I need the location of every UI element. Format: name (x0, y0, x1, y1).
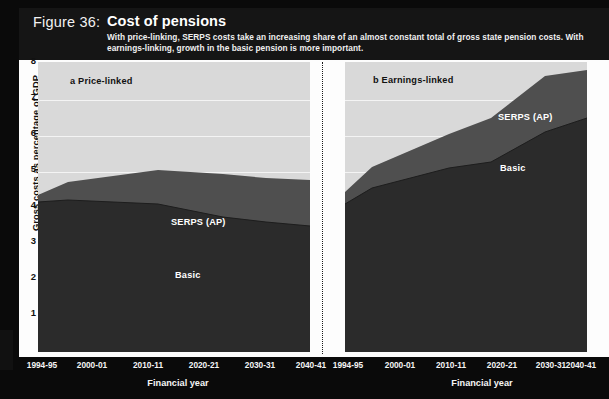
panel-price-linked: a Price-linked SERPS (AP) Basic (38, 62, 310, 352)
x-axis-title-right: Financial year (422, 378, 542, 388)
figure-subtitle: With price-linking, SERPS costs take an … (107, 32, 587, 54)
figure-number: Figure 36: (33, 14, 100, 30)
x-tick-left-2000-01: 2000-01 (64, 360, 120, 370)
panel-earnings-linked: b Earnings-linked SERPS (AP) Basic (345, 62, 587, 352)
x-tick-left-2030-31: 2030-31 (232, 360, 288, 370)
y-tick-8: 8 (8, 55, 36, 66)
x-tick-left-2020-21: 2020-21 (176, 360, 232, 370)
series-label-basic-left: Basic (175, 270, 201, 280)
series-label-serps-right: SERPS (AP) (498, 112, 553, 122)
x-tick-right-2020-21: 2020-21 (474, 360, 530, 370)
figure-title: Cost of pensions (107, 13, 226, 29)
panel-label-a: a Price-linked (70, 76, 133, 86)
series-label-serps-left: SERPS (AP) (171, 217, 226, 227)
y-axis-ticks: 8 7 6 5 4 3 2 1 (0, 60, 36, 360)
panel-label-b: b Earnings-linked (373, 75, 453, 85)
x-tick-left-1994-95: 1994-95 (14, 360, 70, 370)
x-axis-title-left: Financial year (118, 378, 238, 388)
y-tick-6: 6 (8, 127, 36, 138)
y-tick-7: 7 (8, 91, 36, 102)
x-tick-right-2040-41: 2040-41 (553, 360, 609, 370)
x-tick-right-2010-11: 2010-11 (423, 360, 479, 370)
panel-divider (322, 62, 323, 354)
page-corner-tab (0, 330, 13, 370)
x-tick-right-2000-01: 2000-01 (372, 360, 428, 370)
x-tick-right-1994-95: 1994-95 (320, 360, 376, 370)
x-tick-left-2010-11: 2010-11 (120, 360, 176, 370)
y-tick-2: 2 (8, 271, 36, 282)
area-chart-right (345, 62, 587, 352)
figure-root: Figure 36: Cost of pensions With price-l… (0, 0, 609, 399)
series-label-basic-right: Basic (500, 163, 526, 173)
y-tick-1: 1 (8, 307, 36, 318)
y-tick-3: 3 (8, 235, 36, 246)
y-tick-5: 5 (8, 163, 36, 174)
area-chart-left (38, 62, 310, 352)
y-tick-4: 4 (8, 199, 36, 210)
